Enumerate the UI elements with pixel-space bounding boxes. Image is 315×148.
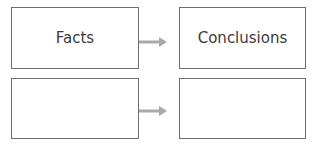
arrow-right-icon [139,37,169,47]
facts-box: Facts [11,7,139,69]
empty-left-box [11,78,139,139]
facts-label: Facts [56,29,94,47]
conclusions-box: Conclusions [179,7,306,69]
conclusions-label: Conclusions [198,29,288,47]
arrow-right-icon [139,106,169,116]
empty-right-box [179,78,306,139]
